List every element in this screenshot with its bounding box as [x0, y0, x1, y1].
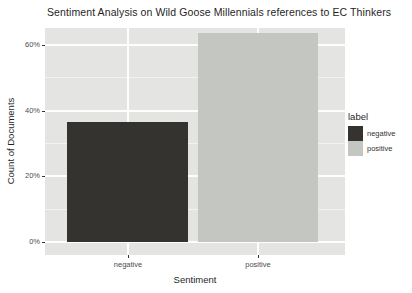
legend-item-negative: negative	[348, 126, 395, 141]
y-axis-title: Count of Documents	[5, 98, 16, 185]
bar-positive	[198, 33, 318, 242]
legend-title: label	[348, 111, 395, 122]
x-tick-mark	[258, 255, 259, 258]
y-tick-mark	[42, 45, 45, 46]
chart-title: Sentiment Analysis on Wild Goose Millenn…	[47, 6, 391, 18]
y-tick-label: 0%	[0, 238, 40, 246]
plot-panel	[45, 28, 345, 255]
x-tick-label-negative: negative	[114, 260, 142, 269]
y-tick-mark	[42, 176, 45, 177]
legend-items: negativepositive	[348, 126, 395, 156]
legend: label negativepositive	[348, 111, 395, 156]
legend-label: positive	[367, 144, 392, 153]
legend-swatch-negative	[348, 126, 363, 141]
y-tick-mark	[42, 242, 45, 243]
bar-negative	[67, 122, 188, 242]
x-tick-label-positive: positive	[245, 260, 270, 269]
chart-page: Sentiment Analysis on Wild Goose Millenn…	[0, 0, 412, 293]
y-tick-label: 60%	[0, 41, 40, 49]
legend-item-positive: positive	[348, 141, 395, 156]
legend-swatch-positive	[348, 141, 363, 156]
x-axis-title: Sentiment	[174, 274, 217, 285]
x-tick-mark	[128, 255, 129, 258]
legend-label: negative	[367, 129, 395, 138]
y-tick-mark	[42, 111, 45, 112]
